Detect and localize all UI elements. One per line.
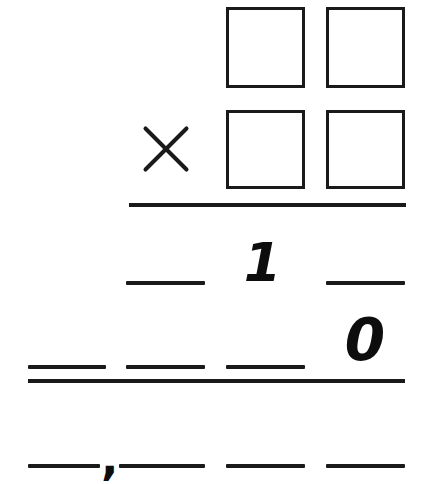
partial-product-2-tens-blank[interactable] xyxy=(226,365,305,369)
multiplicand-ones-digit-box[interactable] xyxy=(326,7,405,88)
partial-product-1-hundreds-blank[interactable] xyxy=(126,281,205,285)
final-answer-thousands-blank[interactable] xyxy=(28,464,100,468)
multiplier-ones-digit-box[interactable] xyxy=(326,110,405,189)
partial-products-separator-rule xyxy=(28,379,405,383)
final-answer-hundreds-blank[interactable] xyxy=(119,464,205,468)
multiplication-sign-icon xyxy=(142,125,190,173)
partial-product-2-ones-digit: 0 xyxy=(335,311,395,369)
long-multiplication-worksheet: 1 0 , xyxy=(0,0,427,484)
final-answer-tens-blank[interactable] xyxy=(226,464,305,468)
partial-product-1-tens-digit: 1 xyxy=(232,236,292,290)
final-answer-ones-blank[interactable] xyxy=(326,464,405,468)
partial-product-2-hundreds-blank[interactable] xyxy=(126,365,205,369)
partial-product-2-thousands-blank[interactable] xyxy=(28,365,106,369)
thousands-separator-comma: , xyxy=(101,435,118,481)
multiplicand-tens-digit-box[interactable] xyxy=(226,7,305,88)
operand-separator-rule xyxy=(129,203,406,207)
partial-product-1-ones-blank[interactable] xyxy=(326,281,405,285)
multiplier-tens-digit-box[interactable] xyxy=(226,110,305,189)
